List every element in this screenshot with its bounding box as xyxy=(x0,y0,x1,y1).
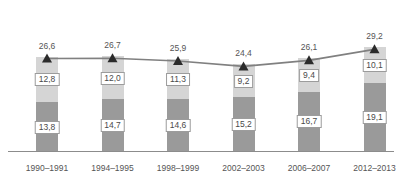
plot-area: 12,813,826,612,014,726,711,314,625,99,21… xyxy=(0,0,402,152)
total-value-label: 25,9 xyxy=(170,43,187,53)
value-label-upper: 11,3 xyxy=(166,73,190,86)
total-value-label: 26,6 xyxy=(39,41,56,51)
total-value-label: 26,1 xyxy=(301,42,318,52)
x-axis-baseline xyxy=(8,151,394,152)
category-label: 2002–2003 xyxy=(222,162,265,174)
stacked-bar-line-chart: 12,813,826,612,014,726,711,314,625,99,21… xyxy=(0,0,402,183)
total-value-label: 26,7 xyxy=(104,40,121,50)
value-label-lower: 14,7 xyxy=(100,119,125,132)
bar-column xyxy=(36,57,58,151)
value-label-lower: 14,6 xyxy=(166,119,191,132)
value-label-lower: 13,8 xyxy=(35,121,60,134)
bar-column xyxy=(102,56,124,151)
value-label-upper: 9,2 xyxy=(234,75,254,88)
value-label-upper: 12,0 xyxy=(100,72,125,85)
value-label-lower: 19,1 xyxy=(362,111,387,124)
value-label-upper: 9,4 xyxy=(299,69,319,82)
total-value-label: 29,2 xyxy=(366,31,383,41)
category-label: 1998–1999 xyxy=(157,162,200,174)
category-axis: 1990–19911994–19951998–19992002–20032006… xyxy=(0,160,402,180)
category-label: 1994–1995 xyxy=(91,162,134,174)
category-label: 1990–1991 xyxy=(26,162,69,174)
value-label-lower: 16,7 xyxy=(297,115,322,128)
value-label-upper: 10,1 xyxy=(362,59,387,72)
value-label-upper: 12,8 xyxy=(35,73,60,86)
value-label-lower: 15,2 xyxy=(231,118,256,131)
category-label: 2012–2013 xyxy=(353,162,396,174)
total-value-label: 24,4 xyxy=(235,48,252,58)
category-label: 2006–2007 xyxy=(288,162,331,174)
